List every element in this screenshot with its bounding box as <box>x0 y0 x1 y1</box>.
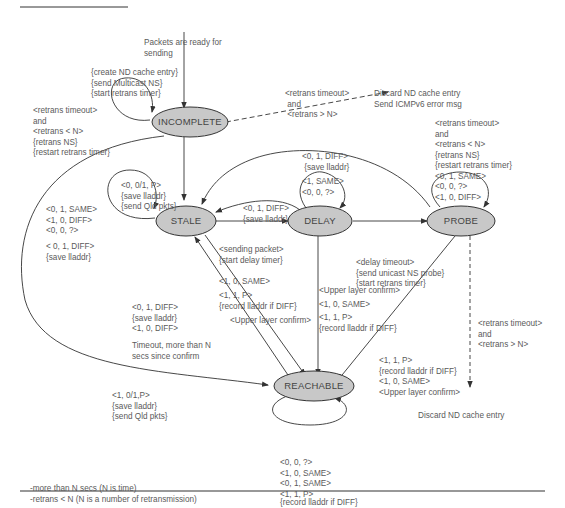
state-incomplete-label: INCOMPLETE <box>152 116 228 127</box>
label-reachable-timeout: Timeout, more than Nsecs since confirm <box>132 320 211 373</box>
label-stale-to-reachable-c: <Upper layer confirm> <box>230 295 311 337</box>
label-notes: -more than N secs (N is time)-retrans < … <box>30 463 197 508</box>
state-reachable-label: REACHABLE <box>274 380 354 391</box>
label-incomplete-fail: <retrans timeout> and <retrans > N> <box>285 68 349 131</box>
label-delay-to-reachable: <Upper layer confirm><1, 0, SAME><1, 1, … <box>319 265 400 345</box>
label-probe-fail: <retrans timeout>and<retrans > N> <box>478 298 542 361</box>
state-delay-label: DELAY <box>288 215 352 226</box>
label-probe-loop: <retrans timeout>and<retrans < N>{retran… <box>435 98 512 214</box>
label-incomplete-loop: <retrans timeout>and<retrans < N>{retran… <box>33 85 110 169</box>
state-probe-label: PROBE <box>427 215 495 226</box>
label-incomplete-to-reachable: <1, 0/1,P>{save lladdr}{send Qld pkts} <box>112 370 168 433</box>
label-incomplete-to-stale: <0, 0/1, P>{save lladdr}{send Qld pkts} <box>121 160 177 223</box>
label-probe-loop-top: <1, SAME><0, 0, ?> <box>302 156 344 209</box>
label-stale-loop-b: < 0, 1, DIFF>{save lladdr} <box>46 221 94 274</box>
label-reachable-loop: <0, 0, ?><1, 0, SAME><0, 1, SAME><1, 1, … <box>280 437 358 508</box>
label-probe-fail-result: Discard ND cache entry <box>418 390 504 432</box>
